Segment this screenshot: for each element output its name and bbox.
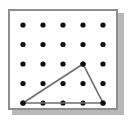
geoboard-peg[interactable] xyxy=(80,42,85,47)
geoboard-peg[interactable] xyxy=(20,42,25,47)
triangle-vertex-peg[interactable] xyxy=(20,100,25,105)
geoboard-peg[interactable] xyxy=(20,22,25,27)
geoboard-peg[interactable] xyxy=(40,22,45,27)
geoboard-peg[interactable] xyxy=(100,61,105,66)
geoboard-peg[interactable] xyxy=(60,22,65,27)
geoboard-peg[interactable] xyxy=(40,61,45,66)
geoboard-peg[interactable] xyxy=(100,81,105,86)
geoboard-peg[interactable] xyxy=(80,22,85,27)
geoboard-figure xyxy=(0,0,132,124)
geoboard-peg[interactable] xyxy=(100,22,105,27)
geoboard-peg[interactable] xyxy=(20,61,25,66)
geoboard-peg[interactable] xyxy=(100,42,105,47)
triangle-vertex-peg[interactable] xyxy=(100,100,105,105)
peg-layer xyxy=(20,22,105,105)
geoboard-peg[interactable] xyxy=(40,81,45,86)
geoboard-peg[interactable] xyxy=(60,81,65,86)
geoboard-canvas xyxy=(0,0,132,124)
geoboard-peg[interactable] xyxy=(60,42,65,47)
geoboard-peg[interactable] xyxy=(20,81,25,86)
geoboard-peg[interactable] xyxy=(60,61,65,66)
geoboard-peg[interactable] xyxy=(40,42,45,47)
geoboard-peg[interactable] xyxy=(80,81,85,86)
triangle-vertex-peg[interactable] xyxy=(80,61,85,66)
